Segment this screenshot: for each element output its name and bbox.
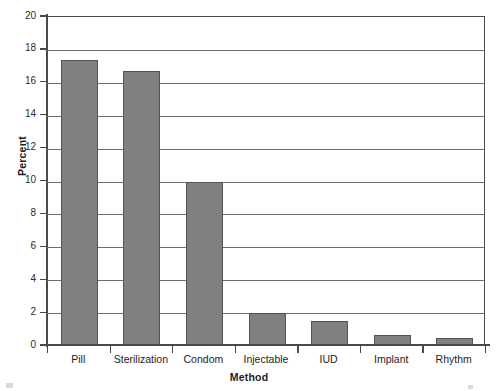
bar-pill xyxy=(61,60,98,346)
y-tick-label-10: 10 xyxy=(2,175,36,185)
gridline-12 xyxy=(47,149,485,150)
bar-iud xyxy=(311,321,348,346)
y-tick-label-16: 16 xyxy=(2,76,36,86)
x-tick-mark-4 xyxy=(297,346,298,353)
x-tick-mark-2 xyxy=(172,346,173,353)
x-tick-label-rhythm: Rhythm xyxy=(409,354,498,366)
y-tick-label-0: 0 xyxy=(2,340,36,350)
y-tick-mark-4 xyxy=(40,279,47,280)
bar-condom xyxy=(186,182,223,347)
x-axis-title: Method xyxy=(0,371,498,383)
y-tick-mark-10 xyxy=(40,180,47,181)
y-tick-label-14: 14 xyxy=(2,109,36,119)
bar-chart-figure: Percent 0 2 4 6 8 10 12 14 16 18 2 xyxy=(0,0,498,391)
y-tick-mark-18 xyxy=(40,48,47,49)
y-tick-label-8: 8 xyxy=(2,208,36,218)
y-tick-mark-8 xyxy=(40,213,47,214)
gridline-8 xyxy=(47,214,485,215)
y-tick-label-4: 4 xyxy=(2,274,36,284)
gridline-14 xyxy=(47,116,485,117)
y-tick-mark-20 xyxy=(40,15,47,16)
scan-artifact xyxy=(468,385,473,389)
x-tick-mark-6 xyxy=(422,346,423,353)
y-tick-label-18: 18 xyxy=(2,43,36,53)
gridline-10 xyxy=(47,182,485,183)
x-tick-mark-5 xyxy=(360,346,361,353)
y-tick-mark-2 xyxy=(40,312,47,313)
y-tick-label-20: 20 xyxy=(2,11,36,21)
y-tick-label-6: 6 xyxy=(2,241,36,251)
scan-artifact xyxy=(6,383,13,388)
y-tick-mark-12 xyxy=(40,147,47,148)
bar-sterilization xyxy=(123,71,160,346)
plot-area xyxy=(47,16,485,345)
y-tick-mark-14 xyxy=(40,114,47,115)
x-tick-mark-0 xyxy=(47,346,48,353)
x-tick-mark-7 xyxy=(485,346,486,353)
x-tick-mark-3 xyxy=(235,346,236,353)
y-tick-mark-16 xyxy=(40,81,47,82)
gridline-4 xyxy=(47,280,485,281)
y-tick-mark-6 xyxy=(40,246,47,247)
x-tick-mark-1 xyxy=(110,346,111,353)
y-tick-label-12: 12 xyxy=(2,142,36,152)
y-tick-label-2: 2 xyxy=(2,307,36,317)
gridline-16 xyxy=(47,83,485,84)
gridline-6 xyxy=(47,247,485,248)
gridline-18 xyxy=(47,50,485,51)
bar-injectable xyxy=(249,313,286,346)
y-tick-mark-0 xyxy=(40,344,47,345)
